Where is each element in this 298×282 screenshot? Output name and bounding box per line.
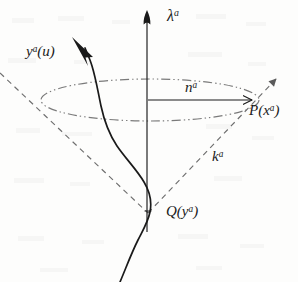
cone-generator-right-line [148, 79, 276, 213]
lambda-axis-arrowhead-icon [144, 10, 151, 25]
label-null-ray: ka [212, 149, 223, 164]
light-cone-diagram: λa ya(u) na P(xa) ka Q(ya) [0, 0, 298, 282]
cone-generator-left-line [0, 73, 148, 213]
label-point-q: Q(ya) [166, 204, 198, 219]
label-normal-vector: na [185, 80, 197, 95]
label-point-p: P(xa) [249, 103, 279, 118]
label-worldline: ya(u) [26, 44, 55, 59]
worldline-curve-path [85, 48, 151, 282]
label-lambda-axis: λa [167, 8, 179, 24]
